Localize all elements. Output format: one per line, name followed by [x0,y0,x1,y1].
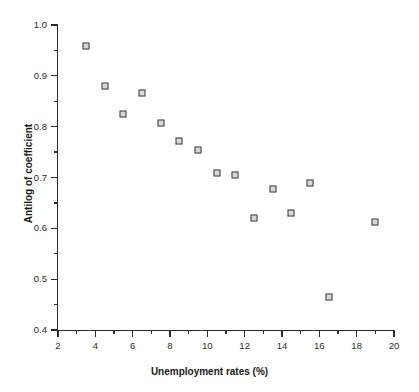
x-tick-label: 12 [230,340,260,351]
data-point-marker [307,180,314,187]
x-tick-minor [300,330,301,334]
plot-area [58,25,394,330]
y-tick-label: 1.0 [7,19,47,30]
data-point-marker [195,146,202,153]
x-tick-major [57,330,58,337]
x-tick-label: 16 [304,340,334,351]
x-tick-major [393,330,394,337]
y-tick-label: 0.9 [7,70,47,81]
data-point-marker [372,218,379,225]
y-tick-major [51,177,58,178]
x-tick-minor [151,330,152,334]
x-tick-label: 20 [379,340,409,351]
y-tick-major [51,75,58,76]
x-tick-major [281,330,282,337]
scatter-chart-figure: 0.40.50.60.70.80.91.0 2468101214161820 A… [0,0,419,392]
x-tick-major [95,330,96,337]
y-tick-major [51,228,58,229]
y-tick-major [51,24,58,25]
x-tick-label: 6 [118,340,148,351]
y-tick-label: 0.4 [7,324,47,335]
x-tick-major [244,330,245,337]
x-tick-minor [337,330,338,334]
x-tick-minor [263,330,264,334]
data-point-marker [139,90,146,97]
x-tick-major [169,330,170,337]
x-tick-minor [188,330,189,334]
y-axis-title: Antilog of coefficient [23,84,34,264]
x-tick-label: 10 [192,340,222,351]
data-point-marker [288,209,295,216]
data-point-marker [213,170,220,177]
x-tick-major [207,330,208,337]
x-axis-title: Unemployment rates (%) [0,366,419,377]
x-tick-label: 2 [43,340,73,351]
x-tick-label: 4 [80,340,110,351]
data-point-marker [157,120,164,127]
data-point-marker [269,186,276,193]
x-tick-label: 14 [267,340,297,351]
x-tick-label: 8 [155,340,185,351]
y-tick-label: 0.5 [7,273,47,284]
data-point-marker [232,171,239,178]
y-tick-major [51,126,58,127]
x-tick-major [356,330,357,337]
data-point-marker [251,214,258,221]
x-tick-minor [375,330,376,334]
x-tick-major [319,330,320,337]
data-point-marker [120,110,127,117]
data-point-marker [325,293,332,300]
data-point-marker [176,137,183,144]
y-tick-major [51,279,58,280]
x-tick-minor [76,330,77,334]
data-point-marker [83,43,90,50]
data-point-marker [101,83,108,90]
x-tick-minor [113,330,114,334]
x-tick-label: 18 [342,340,372,351]
x-tick-major [132,330,133,337]
x-tick-minor [225,330,226,334]
